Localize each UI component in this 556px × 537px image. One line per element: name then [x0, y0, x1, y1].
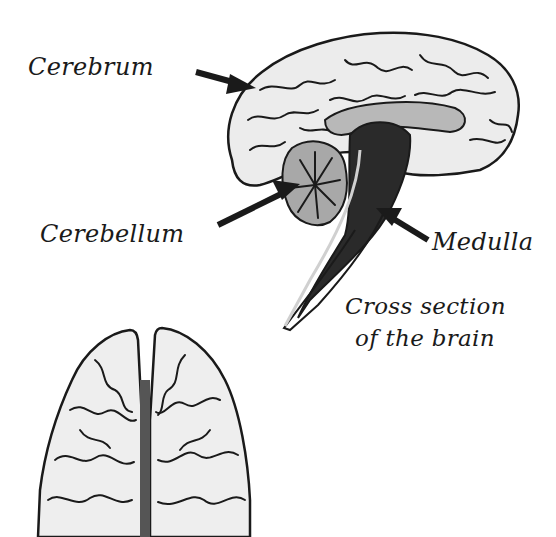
- caption: Cross section of the brain: [345, 290, 506, 354]
- top-view-brain: [38, 328, 250, 537]
- left-hemisphere: [38, 330, 145, 537]
- label-cerebellum: Cerebellum: [40, 220, 184, 248]
- sagittal-brain: [196, 33, 519, 330]
- label-medulla: Medulla: [432, 228, 533, 256]
- right-hemisphere: [150, 328, 250, 537]
- label-cerebrum: Cerebrum: [28, 53, 154, 81]
- arrow-medulla: [376, 208, 428, 240]
- caption-line-2: of the brain: [345, 322, 506, 354]
- caption-line-1: Cross section: [345, 290, 506, 322]
